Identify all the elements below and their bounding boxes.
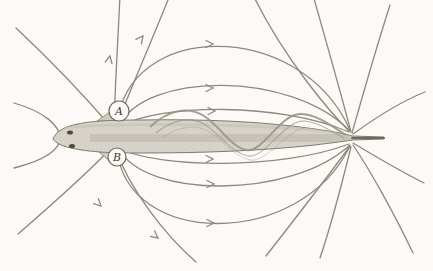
marker-a-label: A <box>114 105 123 118</box>
field-diagram-svg: A B <box>0 0 433 271</box>
marker-b-label: B <box>112 151 121 164</box>
electric-fish-field-figure: A B <box>0 0 433 271</box>
fish-eye-left <box>67 131 73 135</box>
marker-a: A <box>109 101 129 121</box>
marker-b: B <box>108 148 126 166</box>
fish-eye-right <box>69 144 75 148</box>
